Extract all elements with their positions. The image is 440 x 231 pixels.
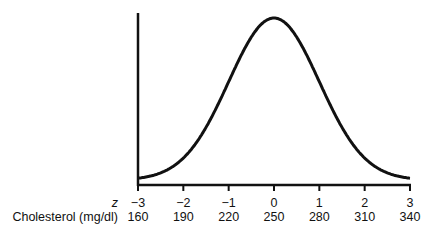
cholesterol-tick-label: 310 <box>354 210 375 224</box>
z-tick-label: 0 <box>271 196 278 210</box>
cholesterol-tick-label: 220 <box>218 210 239 224</box>
cholesterol-tick-label: 280 <box>309 210 330 224</box>
cholesterol-tick-label: 160 <box>128 210 149 224</box>
z-tick-label: −1 <box>222 196 236 210</box>
z-tick-label: 1 <box>316 196 323 210</box>
z-row-title: z <box>112 196 118 210</box>
z-tick-label: 2 <box>361 196 368 210</box>
cholesterol-row-title: Cholesterol (mg/dl) <box>12 210 118 224</box>
z-tick-label: −3 <box>131 196 145 210</box>
cholesterol-tick-label: 250 <box>264 210 285 224</box>
cholesterol-tick-label: 190 <box>173 210 194 224</box>
z-tick-label: −2 <box>176 196 190 210</box>
cholesterol-tick-label: 340 <box>400 210 421 224</box>
normal-curve <box>138 18 410 178</box>
z-tick-label: 3 <box>407 196 414 210</box>
normal-distribution-chart <box>0 0 440 231</box>
